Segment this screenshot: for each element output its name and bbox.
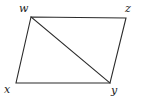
diagonal-wy-path <box>31 17 110 83</box>
geometry-figure: w z x y <box>0 0 141 102</box>
vertex-label-w: w <box>19 3 28 14</box>
vertex-label-y: y <box>111 85 117 96</box>
vertex-label-z: z <box>125 3 131 14</box>
vertex-label-x: x <box>4 84 10 95</box>
quadrilateral-diagram <box>0 0 141 102</box>
